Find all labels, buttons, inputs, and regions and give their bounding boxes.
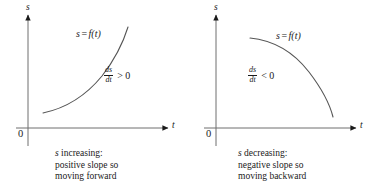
derivative-denominator: dt bbox=[248, 76, 256, 85]
derivative-relation: < 0 bbox=[261, 70, 274, 81]
caption-line-2: positive slope so bbox=[55, 160, 118, 172]
caption-line-3: moving forward bbox=[55, 171, 118, 183]
origin-label-increasing: 0 bbox=[18, 129, 23, 140]
curve-equation-increasing: s=f(t) bbox=[76, 29, 101, 39]
curve-equation-rhs: f(t) bbox=[289, 30, 301, 41]
derivative-relation: > 0 bbox=[117, 70, 130, 81]
caption-line-1: s increasing: bbox=[55, 148, 118, 160]
curve-equation-decreasing: s=f(t) bbox=[276, 31, 301, 41]
x-axis-label-decreasing: t bbox=[360, 121, 363, 131]
caption-line-1: s decreasing: bbox=[238, 148, 306, 160]
caption-line-3: moving backward bbox=[238, 171, 306, 183]
caption-line-1-rest: decreasing: bbox=[242, 148, 288, 158]
x-axis-label-increasing: t bbox=[172, 121, 175, 131]
derivative-sign-figure: s t 0 s=f(t) ds dt > 0 s increasing: pos… bbox=[0, 0, 376, 191]
curve-equation-equals: = bbox=[80, 28, 89, 39]
curve-equation-rhs: f(t) bbox=[89, 28, 101, 39]
derivative-denominator: dt bbox=[104, 76, 112, 85]
y-axis-label-increasing: s bbox=[26, 3, 30, 13]
caption-line-2: negative slope so bbox=[238, 160, 306, 172]
caption-decreasing: s decreasing: negative slope so moving b… bbox=[238, 148, 306, 183]
origin-label-decreasing: 0 bbox=[206, 129, 211, 140]
plot-area-increasing bbox=[0, 0, 188, 145]
curve-equation-equals: = bbox=[280, 30, 289, 41]
y-axis-label-decreasing: s bbox=[214, 3, 218, 13]
panel-s-decreasing: s t 0 s=f(t) ds dt < 0 s decreasing: neg… bbox=[188, 0, 376, 191]
plot-area-decreasing bbox=[188, 0, 376, 145]
derivative-fraction-increasing: ds dt bbox=[104, 66, 113, 85]
derivative-expression-decreasing: ds dt < 0 bbox=[248, 66, 274, 85]
caption-line-1-rest: increasing: bbox=[59, 148, 103, 158]
derivative-expression-increasing: ds dt > 0 bbox=[104, 66, 130, 85]
derivative-fraction-decreasing: ds dt bbox=[248, 66, 257, 85]
panel-s-increasing: s t 0 s=f(t) ds dt > 0 s increasing: pos… bbox=[0, 0, 188, 191]
caption-increasing: s increasing: positive slope so moving f… bbox=[55, 148, 118, 183]
